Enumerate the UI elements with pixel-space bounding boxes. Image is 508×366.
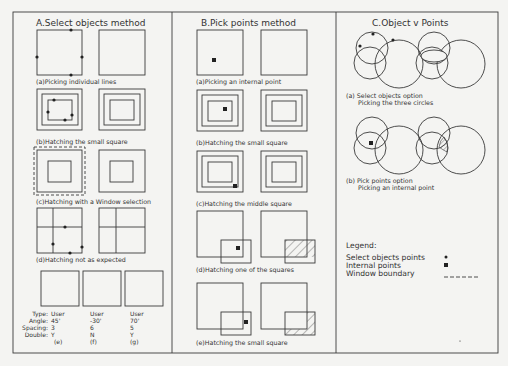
svg-text:N: N — [90, 331, 95, 338]
internal-point-square — [212, 58, 216, 62]
panel-title: C.Object v Points — [372, 18, 449, 28]
window-boundary — [34, 147, 85, 195]
legend: Legend: Select objects points Internal p… — [346, 241, 478, 278]
select-point-dot-icon — [445, 256, 448, 259]
svg-text:(e): (e) — [54, 338, 62, 345]
svg-text:5: 5 — [130, 324, 134, 331]
hatch-sample-e — [41, 271, 79, 306]
svg-text:Y: Y — [50, 331, 55, 338]
caption: (a)Picking an internal point — [196, 78, 282, 86]
svg-text:6: 6 — [90, 324, 94, 331]
hatch-sample-f — [83, 271, 121, 306]
panel-pick-points: B.Pick points method (a)Picking an inter… — [196, 18, 315, 347]
caption: (a)Picking individual lines — [36, 78, 116, 86]
svg-text:(f): (f) — [90, 338, 97, 345]
caption: Picking an internal point — [358, 184, 435, 192]
svg-text:3: 3 — [51, 324, 55, 331]
svg-text:Double:: Double: — [25, 331, 48, 338]
caption: Picking the three circles — [358, 99, 433, 107]
svg-text:User: User — [130, 310, 144, 317]
panel-object-vs-points: C.Object v Points (a) Select objects opt… — [346, 18, 485, 342]
svg-text:User: User — [51, 310, 65, 317]
caption: (c)Hatching the middle square — [196, 200, 292, 208]
hatch-parameter-table: Type: Angle: Spacing: Double: User 45' 3… — [22, 310, 144, 346]
caption: (d)Hatching one of the squares — [196, 266, 294, 274]
caption: (b)Hatching the small square — [36, 138, 128, 146]
panel-title: B.Pick points method — [201, 18, 296, 28]
svg-text:(g): (g) — [130, 338, 139, 346]
select-point-dot — [69, 28, 72, 31]
caption: (b)Hatching the small square — [196, 139, 288, 147]
caption: (e)Hatching the small square — [196, 339, 288, 347]
svg-text:70': 70' — [130, 317, 140, 324]
internal-point-square-icon — [444, 263, 448, 267]
panel-select-objects: A.Select objects method (a)Picking indiv… — [22, 18, 163, 346]
panel-title: A.Select objects method — [36, 18, 146, 28]
svg-text:User: User — [90, 310, 104, 317]
caption: (c)Hatching with a Window selection — [36, 198, 151, 206]
svg-text:Y: Y — [129, 331, 134, 338]
legend-label: Window boundary — [346, 269, 415, 278]
svg-text:45': 45' — [51, 317, 61, 324]
outer-frame — [13, 12, 498, 353]
svg-text:-30': -30' — [90, 317, 102, 324]
caption: (d)Hatching not as expected — [36, 256, 126, 264]
hatch-sample-g — [125, 271, 163, 306]
legend-title: Legend: — [346, 241, 376, 250]
hatching-diagram: A.Select objects method (a)Picking indiv… — [0, 0, 508, 366]
